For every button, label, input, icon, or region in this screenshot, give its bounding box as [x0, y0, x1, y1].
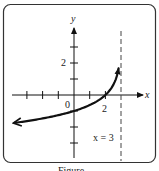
function-curve — [14, 68, 118, 123]
y-axis-label: y — [70, 13, 76, 24]
x-axis-label: x — [144, 89, 150, 100]
y-tick-label-2: 2 — [61, 57, 66, 68]
frame-border — [4, 5, 156, 163]
asymptote-label: x = 3 — [93, 132, 114, 143]
x-tick-label-2: 2 — [102, 103, 107, 114]
origin-label: 0 — [65, 99, 70, 110]
function-graph: y x 0 2 2 x = 3 Figure — [0, 0, 159, 171]
figure-caption: Figure — [58, 165, 85, 171]
